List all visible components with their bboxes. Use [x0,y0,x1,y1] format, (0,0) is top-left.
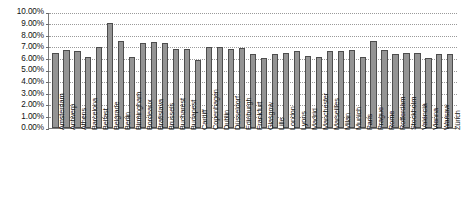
x-axis-label-slot: Milan [335,129,346,199]
x-axis-tick-label: Amsterdam [58,94,65,130]
x-axis-label-slot: Belgrade [104,129,115,199]
x-axis-tick-label: Cardiff [201,109,208,130]
y-axis-tick-label: 2.00% [21,101,44,109]
y-axis-tick-label: 8.00% [21,32,44,40]
x-axis-tick-label: Düsseldorf [234,96,241,130]
x-axis-label-slot: Frankfurt [247,129,258,199]
x-axis-tick-label: Dublin [223,110,230,130]
x-axis-label-slot: Amsterdam [49,129,60,199]
x-axis-tick-label: Bratislava [157,99,164,130]
x-axis-label-slot: Brussels [159,129,170,199]
x-axis-label-slot: Paris [357,129,368,199]
x-axis-label-slot: Birmingham [126,129,137,199]
y-axis: 0.00%1.00%2.00%3.00%4.00%5.00%6.00%7.00%… [0,8,46,129]
x-axis-tick-label: Vienna [432,108,439,130]
x-axis-tick-label: Milan [344,113,351,130]
x-axis-tick-label: Marseilles [333,98,340,130]
x-axis-label-slot: Berlin [115,129,126,199]
x-axis-label-slot: Valencia [412,129,423,199]
y-axis-tick-label: 6.00% [21,55,44,63]
x-axis-tick-label: Stockholm [410,97,417,130]
x-axis-tick-label: Athens [80,108,87,130]
x-axis-tick-label: Copenhagen [212,89,219,130]
x-axis-label-slot: Athens [71,129,82,199]
x-axis-label-slot: Budapest [181,129,192,199]
x-axis-tick-label: Barcelona [91,98,98,130]
x-axis-tick-label: Bordeaux [146,100,153,130]
x-axis-label-slot: Madrid [302,129,313,199]
x-axis-label-slot: Lille [269,129,280,199]
x-axis-tick-label: Budapest [190,100,197,130]
x-axis-tick-label: Bucharest [179,98,186,130]
x-axis-tick-label: Belfast [102,108,109,130]
x-axis-label-slot: Antwerp [60,129,71,199]
x-axis-label-slot: Barcelona [82,129,93,199]
y-axis-tick-label: 9.00% [21,20,44,28]
x-axis-label-slot: Manchester [313,129,324,199]
y-axis-tick-label: 0.00% [21,124,44,132]
x-axis-label-slot: Lyons [291,129,302,199]
x-axis-label-slot: London [280,129,291,199]
x-axis-tick-label: Lyons [300,111,307,130]
x-axis-label-slot: Stockholm [401,129,412,199]
x-axis-label-slot: Belfast [93,129,104,199]
x-axis-label-slot: Rotterdam [390,129,401,199]
x-axis-tick-label: Rome [388,111,395,130]
bar-chart: 0.00%1.00%2.00%3.00%4.00%5.00%6.00%7.00%… [0,0,464,200]
y-axis-tick-label: 4.00% [21,78,44,86]
x-axis-tick-label: Zürich [454,110,461,130]
y-axis-tick-label: 1.00% [21,113,44,121]
x-axis-tick-label: Madrid [311,108,318,130]
x-axis-label-slot: Dublin [214,129,225,199]
x-axis-tick-label: Brussels [168,103,175,130]
x-axis-label-slot: Munich [346,129,357,199]
x-axis: AmsterdamAntwerpAthensBarcelonaBelfastBe… [48,129,457,199]
x-axis-tick-label: Prague [377,107,384,130]
x-axis-label-slot: Bucharest [170,129,181,199]
y-axis-tick-label: 7.00% [21,43,44,51]
x-axis-label-slot: Bratislava [148,129,159,199]
x-axis-tick-label: Valencia [421,103,428,130]
x-axis-tick-label: Birmingham [135,92,142,130]
x-axis-tick-label: Paris [366,114,373,130]
y-axis-tick-label: 3.00% [21,90,44,98]
x-axis-tick-label: Rotterdam [399,97,406,130]
x-axis-label-slot: Düsseldorf [225,129,236,199]
x-axis-tick-label: Berlin [124,112,131,130]
x-axis-tick-label: Antwerp [69,104,76,130]
x-axis-tick-label: Glasgow [267,102,274,130]
x-axis-label-slot: Vienna [423,129,434,199]
x-axis-label-slot: Copenhagen [203,129,214,199]
x-axis-label-slot: Zürich [445,129,456,199]
x-axis-label-slot: Glasgow [258,129,269,199]
x-axis-label-slot: Rome [379,129,390,199]
y-axis-tick-label: 5.00% [21,66,44,74]
x-axis-tick-label: London [289,106,296,130]
x-axis-tick-label: Warsaw [443,104,450,130]
x-axis-tick-label: Frankfurt [256,102,263,130]
y-axis-tick-label: 10.00% [17,8,44,16]
x-axis-tick-label: Manchester [322,93,329,130]
x-axis-label-slot: Prague [368,129,379,199]
x-axis-label-slot: Marseilles [324,129,335,199]
x-axis-tick-label: Munich [355,107,362,130]
x-axis-label-slot: Bordeaux [137,129,148,199]
x-axis-label-slot: Cardiff [192,129,203,199]
x-axis-label-slot: Edinburgh [236,129,247,199]
x-axis-tick-label: Belgrade [113,102,120,130]
x-axis-tick-label: Edinburgh [245,98,252,130]
x-axis-label-slot: Warsaw [434,129,445,199]
